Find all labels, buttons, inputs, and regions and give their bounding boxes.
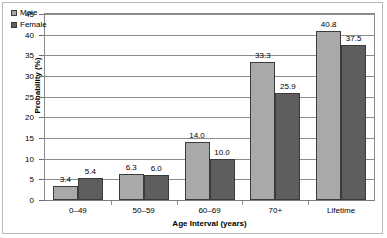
x-tick-mark-0 (111, 201, 112, 205)
bar-value-label-female-3: 25.9 (280, 82, 296, 91)
bar-male-1 (119, 174, 144, 200)
bar-male-4 (316, 31, 341, 200)
bar-male-3 (250, 62, 275, 200)
x-tick-label-4: Lifetime (327, 206, 355, 215)
x-tick-label-0: 0–49 (69, 206, 87, 215)
y-tick-label-35: 35 (4, 51, 34, 60)
bar-value-label-male-3: 33.3 (255, 51, 271, 60)
y-tick-label-25: 25 (4, 92, 34, 101)
y-axis-title: Probability (%) (33, 26, 42, 146)
bar-value-label-male-4: 40.8 (321, 20, 337, 29)
bar-value-label-female-0: 5.4 (85, 167, 96, 176)
chart-legend: Male Female (11, 8, 47, 32)
bar-male-2 (185, 142, 210, 200)
plot-area: 3.45.46.36.014.010.033.325.940.837.5 (44, 13, 375, 201)
x-tick-mark-3 (308, 201, 309, 205)
bar-value-label-female-1: 6.0 (151, 164, 162, 173)
plot-inner: 3.45.46.36.014.010.033.325.940.837.5 (45, 14, 374, 200)
y-tick-label-10: 10 (4, 154, 34, 163)
legend-item-female: Female (11, 20, 47, 29)
bar-female-3 (275, 93, 300, 200)
bar-female-0 (78, 178, 103, 200)
y-tick-label-15: 15 (4, 134, 34, 143)
chart-figure: Probability (%) 051015202530354045 3.45.… (2, 2, 383, 234)
y-tick-label-30: 30 (4, 72, 34, 81)
bar-value-label-male-0: 3.4 (60, 175, 71, 184)
gridline-0 (45, 200, 374, 201)
legend-swatch-female-icon (11, 22, 17, 28)
y-tick-label-20: 20 (4, 113, 34, 122)
bar-value-label-female-2: 10.0 (214, 148, 230, 157)
bar-value-label-female-4: 37.5 (346, 34, 362, 43)
gridline-45 (45, 14, 374, 15)
bar-female-1 (144, 175, 169, 200)
legend-label-male: Male (20, 8, 37, 17)
legend-label-female: Female (20, 20, 47, 29)
y-tick-label-5: 5 (4, 175, 34, 184)
legend-item-male: Male (11, 8, 47, 17)
bar-male-0 (53, 186, 78, 200)
x-tick-label-1: 50–59 (133, 206, 155, 215)
y-tick-label-0: 0 (4, 196, 34, 205)
x-tick-label-3: 70+ (269, 206, 283, 215)
bar-value-label-male-2: 14.0 (189, 131, 205, 140)
x-tick-mark-1 (177, 201, 178, 205)
legend-swatch-male-icon (11, 10, 17, 16)
bar-value-label-male-1: 6.3 (126, 163, 137, 172)
x-tick-mark-2 (242, 201, 243, 205)
bar-female-4 (341, 45, 366, 200)
bar-female-2 (210, 159, 235, 200)
x-tick-label-2: 60–69 (198, 206, 220, 215)
x-axis-title: Age Interval (years) (44, 219, 375, 228)
